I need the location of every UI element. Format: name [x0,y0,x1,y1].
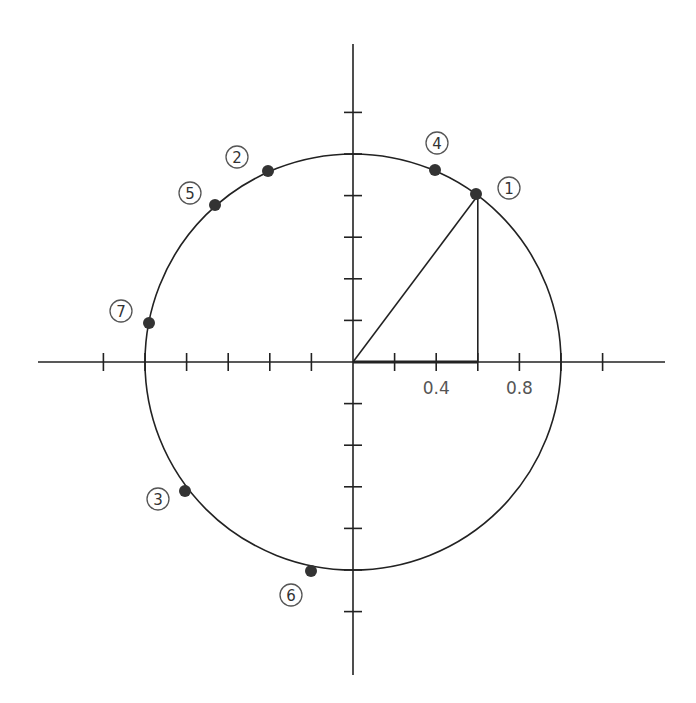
reference-triangle [353,196,478,362]
point-5: 5 [179,182,221,211]
point-marker [470,188,482,200]
tick-label: 0.8 [506,378,533,398]
point-label: 3 [153,491,163,509]
hypotenuse [353,196,478,362]
point-marker [209,199,221,211]
axes [38,44,665,675]
point-marker [429,164,441,176]
point-label: 5 [185,185,195,203]
point-1: 1 [470,177,520,200]
points: 1234567 [110,132,520,606]
tick-labels: 0.40.8 [423,378,533,398]
tick-label: 0.4 [423,378,450,398]
point-4: 4 [426,132,448,176]
point-marker [179,485,191,497]
point-label: 2 [232,149,242,167]
point-2: 2 [226,146,274,177]
point-label: 7 [116,303,126,321]
point-label: 1 [504,180,514,198]
point-7: 7 [110,300,155,329]
point-marker [262,165,274,177]
point-marker [305,565,317,577]
point-label: 6 [286,587,296,605]
point-marker [143,317,155,329]
point-3: 3 [147,485,191,510]
point-6: 6 [280,565,317,606]
unit-circle-diagram: 0.40.8 1234567 [0,0,696,703]
point-label: 4 [432,135,442,153]
